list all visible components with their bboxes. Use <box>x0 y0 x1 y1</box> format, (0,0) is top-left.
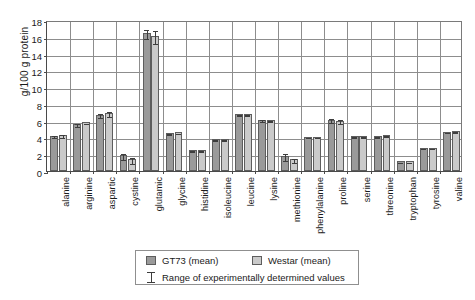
error-bar-lysine-westar <box>268 121 273 123</box>
y-axis-tick-mark <box>44 39 47 40</box>
error-bar-cystine-gt73 <box>121 154 126 162</box>
x-axis-tick-mark <box>47 171 48 174</box>
y-axis-tick-mark <box>44 156 47 157</box>
bar-isoleucine-gt73 <box>212 139 220 171</box>
x-axis-label-threonine: threonine <box>385 177 395 215</box>
x-gridline <box>139 22 140 171</box>
bar-leucine-westar <box>244 114 252 171</box>
x-gridline <box>394 22 395 171</box>
bar-proline-gt73 <box>328 120 336 171</box>
x-axis-tick-mark <box>324 171 325 174</box>
bar-histidine-westar <box>198 150 206 171</box>
y-gridline <box>47 39 461 40</box>
error-bar-glycine-westar <box>176 134 181 136</box>
bar-glycine-westar <box>175 132 183 171</box>
x-gridline <box>70 22 71 171</box>
bar-valine-gt73 <box>443 132 451 171</box>
error-bar-methionine-gt73 <box>283 154 288 162</box>
bar-threonine-gt73 <box>374 136 382 171</box>
error-bar-histidine-westar <box>199 151 204 153</box>
bar-phenylalanine-gt73 <box>304 137 312 171</box>
bar-tyrosine-gt73 <box>420 148 428 171</box>
x-axis-label-glutamic: glutamic <box>154 177 164 211</box>
x-axis-label-arginine: arginine <box>84 177 94 210</box>
y-axis-tick-mark <box>44 89 47 90</box>
x-axis-tick-mark <box>209 171 210 174</box>
error-bar-aspartic-gt73 <box>98 114 103 119</box>
x-axis-label-proline: proline <box>338 177 348 205</box>
x-gridline <box>232 22 233 171</box>
bar-lysine-gt73 <box>258 120 266 171</box>
y-axis-tick-mark <box>44 22 47 23</box>
error-bar-tyrosine-westar <box>430 149 435 151</box>
x-axis-label-alanine: alanine <box>61 177 71 207</box>
y-axis-tick-mark <box>44 139 47 140</box>
legend-label-range: Range of experimentally determined value… <box>162 272 345 283</box>
error-bar-valine-gt73 <box>445 133 450 135</box>
x-axis-label-cystine: cystine <box>130 177 140 206</box>
x-gridline <box>324 22 325 171</box>
x-axis-tick-mark <box>347 171 348 174</box>
legend-row-range: Range of experimentally determined value… <box>136 269 358 285</box>
x-axis-label-aspartic: aspartic <box>107 177 117 209</box>
x-axis-tick-mark <box>139 171 140 174</box>
error-bar-cystine-westar <box>130 158 135 165</box>
error-bar-arginine-westar <box>84 124 89 126</box>
x-axis-label-tryptophan: tryptophan <box>408 177 418 221</box>
legend-swatch-westar-icon <box>252 256 262 265</box>
bar-alanine-westar <box>59 135 67 171</box>
x-gridline <box>186 22 187 171</box>
y-axis-tick-mark <box>44 56 47 57</box>
x-gridline <box>440 22 441 171</box>
x-gridline <box>209 22 210 171</box>
error-bar-phenylalanine-westar <box>315 138 320 140</box>
bar-threonine-westar <box>383 135 391 171</box>
x-axis-label-lysine: lysine <box>269 177 279 201</box>
x-axis-tick-mark <box>371 171 372 174</box>
bar-arginine-gt73 <box>73 124 81 171</box>
error-bar-threonine-westar <box>384 136 389 138</box>
x-gridline <box>93 22 94 171</box>
error-bar-isoleucine-gt73 <box>213 140 218 142</box>
bar-valine-westar <box>452 131 460 171</box>
legend-swatch-gt73-icon <box>146 256 156 265</box>
x-axis-tick-mark <box>278 171 279 174</box>
x-gridline <box>301 22 302 171</box>
error-bar-glutamic-westar <box>153 31 158 44</box>
error-bar-proline-westar <box>338 120 343 125</box>
x-axis-tick-mark <box>232 171 233 174</box>
x-axis-tick-mark <box>301 171 302 174</box>
x-gridline <box>417 22 418 171</box>
error-bar-serine-gt73 <box>352 137 357 139</box>
x-axis-tick-mark <box>394 171 395 174</box>
error-bar-serine-westar <box>361 137 366 139</box>
legend-item-westar: Westar (mean) <box>252 252 331 268</box>
amino-acid-composition-bar-chart: g/100 g protein 024681012141618 GT73 (me… <box>0 0 475 300</box>
error-bar-arginine-gt73 <box>75 124 80 127</box>
error-bar-threonine-gt73 <box>375 137 380 139</box>
y-axis-tick-mark <box>44 106 47 107</box>
bar-leucine-gt73 <box>235 114 243 171</box>
bar-phenylalanine-westar <box>313 137 321 171</box>
plot-area: 024681012141618 <box>46 21 462 172</box>
chart-legend: GT73 (mean) Westar (mean) Range of exper… <box>135 250 359 285</box>
x-gridline <box>371 22 372 171</box>
y-axis-tick-mark <box>44 72 47 73</box>
error-bar-glutamic-gt73 <box>144 30 149 40</box>
x-gridline <box>347 22 348 171</box>
bar-glutamic-gt73 <box>143 33 151 171</box>
x-axis-tick-mark <box>417 171 418 174</box>
legend-item-gt73: GT73 (mean) <box>146 252 219 268</box>
error-bar-tryptophan-westar <box>407 163 412 165</box>
x-axis-tick-mark <box>116 171 117 174</box>
x-axis-label-isoleucine: isoleucine <box>223 177 233 218</box>
error-bar-histidine-gt73 <box>190 151 195 153</box>
bar-aspartic-gt73 <box>96 115 104 171</box>
x-axis-tick-mark <box>186 171 187 174</box>
bar-serine-westar <box>359 136 367 171</box>
x-gridline <box>255 22 256 171</box>
x-axis-tick-mark <box>163 171 164 174</box>
bar-proline-westar <box>336 121 344 171</box>
bar-glutamic-westar <box>151 36 159 171</box>
x-axis-tick-mark <box>440 171 441 174</box>
